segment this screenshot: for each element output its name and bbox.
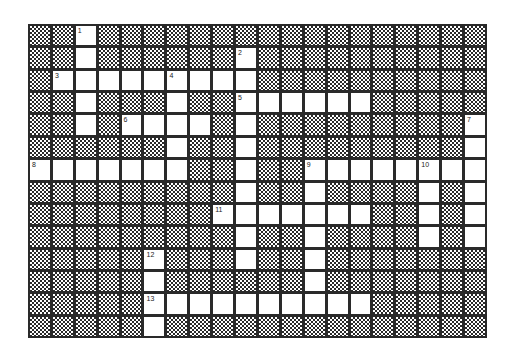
- answer-cell[interactable]: [328, 160, 348, 179]
- answer-cell[interactable]: [305, 272, 325, 291]
- block-cell: [122, 317, 142, 336]
- answer-cell[interactable]: [213, 294, 233, 313]
- answer-cell[interactable]: [328, 205, 348, 224]
- block-cell: [53, 227, 73, 246]
- answer-cell[interactable]: [465, 205, 485, 224]
- answer-cell[interactable]: [76, 115, 96, 134]
- answer-cell[interactable]: [122, 71, 142, 90]
- answer-cell[interactable]: [236, 183, 256, 202]
- answer-cell[interactable]: [122, 160, 142, 179]
- answer-cell[interactable]: 1: [76, 26, 96, 45]
- answer-cell[interactable]: [236, 294, 256, 313]
- block-cell: [419, 250, 439, 269]
- answer-cell[interactable]: 12: [144, 250, 164, 269]
- answer-cell[interactable]: [328, 294, 348, 313]
- answer-cell[interactable]: [190, 71, 210, 90]
- answer-cell[interactable]: [236, 138, 256, 157]
- block-cell: [373, 250, 393, 269]
- answer-cell[interactable]: [305, 93, 325, 112]
- answer-cell[interactable]: [419, 227, 439, 246]
- answer-cell[interactable]: [76, 48, 96, 67]
- answer-cell[interactable]: [305, 183, 325, 202]
- answer-cell[interactable]: [351, 160, 371, 179]
- answer-cell[interactable]: [99, 160, 119, 179]
- answer-cell[interactable]: [144, 317, 164, 336]
- answer-cell[interactable]: [373, 160, 393, 179]
- answer-cell[interactable]: [442, 160, 462, 179]
- answer-cell[interactable]: [305, 250, 325, 269]
- answer-cell[interactable]: [396, 160, 416, 179]
- answer-cell[interactable]: [351, 93, 371, 112]
- answer-cell[interactable]: [144, 115, 164, 134]
- answer-cell[interactable]: [282, 93, 302, 112]
- block-cell: [122, 93, 142, 112]
- answer-cell[interactable]: [236, 250, 256, 269]
- block-cell: [396, 183, 416, 202]
- answer-cell[interactable]: [213, 71, 233, 90]
- answer-cell[interactable]: [167, 294, 187, 313]
- block-cell: [373, 71, 393, 90]
- answer-cell[interactable]: 11: [213, 205, 233, 224]
- block-cell: [122, 48, 142, 67]
- block-cell: [465, 48, 485, 67]
- answer-cell[interactable]: [236, 227, 256, 246]
- answer-cell[interactable]: 7: [465, 115, 485, 134]
- answer-cell[interactable]: 2: [236, 48, 256, 67]
- answer-cell[interactable]: [328, 93, 348, 112]
- answer-cell[interactable]: [259, 205, 279, 224]
- answer-cell[interactable]: 6: [122, 115, 142, 134]
- answer-cell[interactable]: [167, 93, 187, 112]
- answer-cell[interactable]: 4: [167, 71, 187, 90]
- block-cell: [144, 183, 164, 202]
- answer-cell[interactable]: [190, 294, 210, 313]
- block-cell: [442, 294, 462, 313]
- answer-cell[interactable]: 5: [236, 93, 256, 112]
- answer-cell[interactable]: [99, 71, 119, 90]
- answer-cell[interactable]: [144, 160, 164, 179]
- answer-cell[interactable]: [167, 160, 187, 179]
- answer-cell[interactable]: [144, 272, 164, 291]
- block-cell: [99, 294, 119, 313]
- block-cell: [53, 138, 73, 157]
- answer-cell[interactable]: [351, 294, 371, 313]
- answer-cell[interactable]: [351, 205, 371, 224]
- answer-cell[interactable]: [76, 93, 96, 112]
- answer-cell[interactable]: [236, 71, 256, 90]
- answer-cell[interactable]: [259, 294, 279, 313]
- answer-cell[interactable]: [236, 160, 256, 179]
- answer-cell[interactable]: [190, 115, 210, 134]
- answer-cell[interactable]: [167, 115, 187, 134]
- block-cell: [305, 26, 325, 45]
- answer-cell[interactable]: [305, 205, 325, 224]
- block-cell: [213, 272, 233, 291]
- answer-cell[interactable]: 10: [419, 160, 439, 179]
- block-cell: [53, 115, 73, 134]
- answer-cell[interactable]: [419, 183, 439, 202]
- answer-cell[interactable]: [282, 294, 302, 313]
- answer-cell[interactable]: [76, 160, 96, 179]
- answer-cell[interactable]: [282, 205, 302, 224]
- answer-cell[interactable]: 9: [305, 160, 325, 179]
- block-cell: [144, 93, 164, 112]
- answer-cell[interactable]: [465, 160, 485, 179]
- answer-cell[interactable]: [76, 71, 96, 90]
- block-cell: [305, 138, 325, 157]
- answer-cell[interactable]: [144, 71, 164, 90]
- answer-cell[interactable]: 13: [144, 294, 164, 313]
- answer-cell[interactable]: [236, 205, 256, 224]
- answer-cell[interactable]: 3: [53, 71, 73, 90]
- answer-cell[interactable]: [465, 183, 485, 202]
- block-cell: [419, 317, 439, 336]
- answer-cell[interactable]: [53, 160, 73, 179]
- block-cell: [305, 115, 325, 134]
- answer-cell[interactable]: [167, 138, 187, 157]
- answer-cell[interactable]: [305, 227, 325, 246]
- clue-number: 4: [169, 72, 173, 79]
- answer-cell[interactable]: 8: [30, 160, 50, 179]
- answer-cell[interactable]: [305, 294, 325, 313]
- answer-cell[interactable]: [419, 205, 439, 224]
- answer-cell[interactable]: [236, 115, 256, 134]
- answer-cell[interactable]: [465, 138, 485, 157]
- answer-cell[interactable]: [465, 227, 485, 246]
- answer-cell[interactable]: [259, 93, 279, 112]
